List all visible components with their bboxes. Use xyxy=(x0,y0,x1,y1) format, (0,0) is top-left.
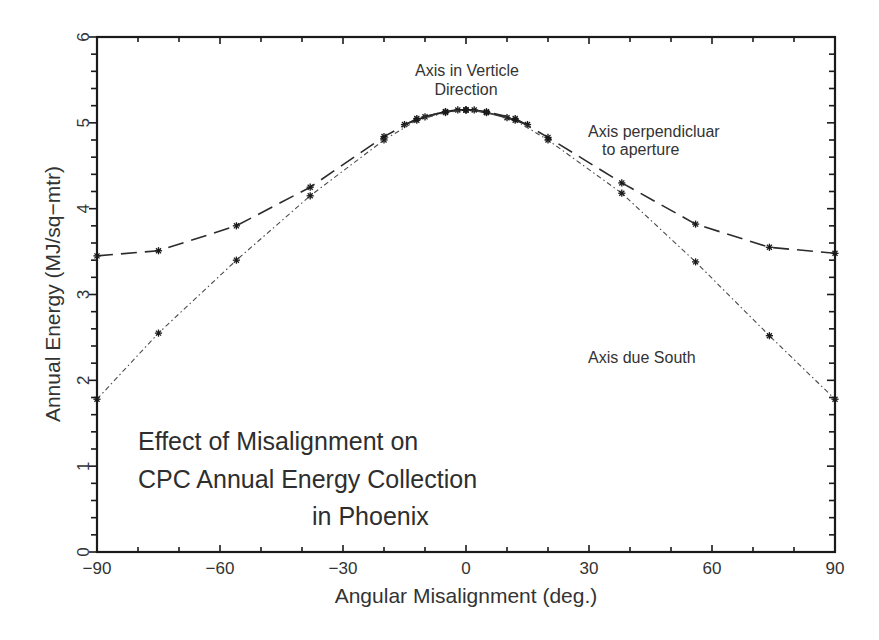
x-tick-label: 60 xyxy=(703,559,722,578)
y-tick-label: 0 xyxy=(74,547,93,556)
y-tick-label: 4 xyxy=(74,204,93,213)
y-tick-label: 5 xyxy=(74,118,93,127)
series-axis-perpendicluar-to-aperture xyxy=(93,106,838,259)
data-point-marker xyxy=(307,184,314,191)
data-point-marker xyxy=(766,244,773,251)
data-point-marker xyxy=(618,179,625,186)
line-chart: −90−60−300306090 0123456 Angular Misalig… xyxy=(0,0,879,640)
y-tick-label: 2 xyxy=(74,376,93,385)
data-point-marker xyxy=(831,250,838,257)
series-line xyxy=(97,110,835,256)
series-line xyxy=(97,110,835,399)
data-point-marker xyxy=(831,396,838,403)
series-layer xyxy=(93,106,838,402)
annotation-vertical-line2: Direction xyxy=(434,81,497,98)
chart-title-line1: Effect of Misalignment on xyxy=(138,427,418,455)
data-point-marker xyxy=(155,247,162,254)
chart-title: Effect of Misalignment on CPC Annual Ene… xyxy=(138,427,477,530)
y-tick-label: 6 xyxy=(74,32,93,41)
data-point-marker xyxy=(692,221,699,228)
x-tick-label: 90 xyxy=(826,559,845,578)
series-axis-due-south xyxy=(93,106,838,402)
data-point-marker xyxy=(544,136,551,143)
data-point-marker xyxy=(233,222,240,229)
y-tick-label: 1 xyxy=(74,461,93,470)
data-point-marker xyxy=(766,332,773,339)
x-tick-labels: −90−60−300306090 xyxy=(83,559,845,578)
x-tick-label: −60 xyxy=(206,559,235,578)
y-tick-label: 3 xyxy=(74,290,93,299)
data-point-marker xyxy=(93,396,100,403)
x-axis-title: Angular Misalignment (deg.) xyxy=(335,584,598,607)
data-point-marker xyxy=(233,257,240,264)
y-axis-title: Annual Energy (MJ/sq−mtr) xyxy=(41,166,64,422)
data-point-marker xyxy=(307,192,314,199)
data-point-marker xyxy=(462,106,469,113)
annotation-perpendicular-line2: to aperture xyxy=(602,141,679,158)
x-tick-label: 0 xyxy=(461,559,470,578)
data-point-marker xyxy=(618,190,625,197)
y-tick-labels: 0123456 xyxy=(74,32,93,556)
x-tick-label: −90 xyxy=(83,559,112,578)
series-annotations: Axis in Verticle Direction Axis perpendi… xyxy=(415,62,720,366)
annotation-perpendicular-line1: Axis perpendicluar xyxy=(588,123,720,140)
x-tick-label: −30 xyxy=(329,559,358,578)
annotation-vertical-line1: Axis in Verticle xyxy=(415,62,519,79)
chart-title-line3: in Phoenix xyxy=(312,502,429,530)
data-point-marker xyxy=(512,117,519,124)
data-point-marker xyxy=(155,330,162,337)
data-point-marker xyxy=(93,252,100,259)
x-tick-label: 30 xyxy=(580,559,599,578)
data-point-marker xyxy=(413,117,420,124)
annotation-due-south: Axis due South xyxy=(588,349,696,366)
data-point-marker xyxy=(692,258,699,265)
chart-title-line2: CPC Annual Energy Collection xyxy=(138,465,477,493)
